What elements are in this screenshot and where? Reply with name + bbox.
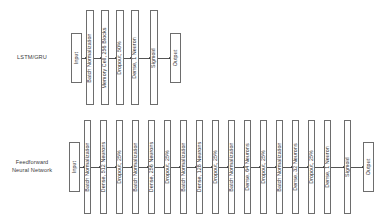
node-label: Batch Normalization xyxy=(229,142,234,191)
row-label-feedforward-neural-network: Feedforward Neural Network xyxy=(12,158,52,174)
arrow-lstm-gru-5 xyxy=(158,58,170,59)
node-label: Dense, 32 Neurons xyxy=(293,143,298,190)
node-feedforward-neural-network-dense-256: Dense, 256 Neurons xyxy=(148,120,155,214)
node-label: Output xyxy=(366,159,371,176)
node-lstm-gru-output: Output xyxy=(170,33,181,83)
node-feedforward-neural-network-dropout-4: Dropout, 25% xyxy=(260,120,267,214)
node-label: Dropout, 25% xyxy=(117,150,122,184)
node-feedforward-neural-network-batch-normalization-3: Batch Normalization xyxy=(180,120,187,214)
node-label: Dense, 1 Neuron xyxy=(325,146,330,188)
node-label: Dropout, 25% xyxy=(309,150,314,184)
node-feedforward-neural-network-batch-normalization-2: Batch Normalization xyxy=(132,120,139,214)
node-label: Dense, 1 Neuron xyxy=(132,37,137,79)
node-lstm-gru-input: Input xyxy=(71,33,82,83)
node-label: Input xyxy=(74,52,79,64)
node-feedforward-neural-network-dropout-5: Dropout, 25% xyxy=(308,120,315,214)
arrow-feedforward-neural-network-15 xyxy=(315,167,324,168)
arrow-feedforward-neural-network-4 xyxy=(139,167,148,168)
node-label: Dropout, 25% xyxy=(261,150,266,184)
node-label: Batch Normalization xyxy=(277,142,282,191)
arrow-lstm-gru-1 xyxy=(94,58,101,59)
arrow-feedforward-neural-network-6 xyxy=(171,167,180,168)
arrow-lstm-gru-3 xyxy=(124,58,131,59)
node-label: Batch Normalization xyxy=(133,142,138,191)
node-feedforward-neural-network-sigmoid: Sigmoid xyxy=(344,120,351,214)
node-feedforward-neural-network-dense-512: Dense, 512 Neurons xyxy=(100,120,107,214)
node-label: Dropout, 25% xyxy=(165,150,170,184)
node-label: Dense, 512 Neurons xyxy=(101,142,106,192)
node-feedforward-neural-network-batch-normalization-1: Batch Normalization xyxy=(84,120,91,214)
node-label: Memory Cell, 256 Blocks xyxy=(102,27,107,88)
network-architecture-diagram: LSTM/GRUInputBatch NormalizationMemory C… xyxy=(0,0,386,223)
arrow-feedforward-neural-network-2 xyxy=(107,167,116,168)
arrow-feedforward-neural-network-10 xyxy=(235,167,244,168)
arrow-feedforward-neural-network-11 xyxy=(251,167,260,168)
node-feedforward-neural-network-output: Output xyxy=(363,142,374,192)
arrow-feedforward-neural-network-13 xyxy=(283,167,292,168)
node-label: Batch Normalization xyxy=(87,33,92,82)
node-lstm-gru-memory-cell: Memory Cell, 256 Blocks xyxy=(101,10,109,105)
arrow-feedforward-neural-network-5 xyxy=(155,167,164,168)
node-feedforward-neural-network-dense-1: Dense, 1 Neuron xyxy=(324,120,331,214)
node-label: Dense, 64 Neurons xyxy=(245,143,250,190)
node-lstm-gru-sigmoid: Sigmoid xyxy=(150,10,158,105)
node-feedforward-neural-network-batch-normalization-5: Batch Normalization xyxy=(276,120,283,214)
node-label: Sigmoid xyxy=(151,48,156,68)
arrow-feedforward-neural-network-14 xyxy=(299,167,308,168)
arrow-feedforward-neural-network-7 xyxy=(187,167,196,168)
arrow-feedforward-neural-network-8 xyxy=(203,167,212,168)
node-label: Batch Normalization xyxy=(181,142,186,191)
node-feedforward-neural-network-input: Input xyxy=(69,142,80,192)
arrow-lstm-gru-4 xyxy=(139,58,150,59)
arrow-feedforward-neural-network-9 xyxy=(219,167,228,168)
node-feedforward-neural-network-dropout-2: Dropout, 25% xyxy=(164,120,171,214)
node-label: Dense, 128 Neurons xyxy=(197,142,202,192)
node-lstm-gru-dropout: Dropout, 50% xyxy=(116,10,124,105)
node-label: Input xyxy=(72,161,77,173)
node-label: Dropout, 25% xyxy=(213,150,218,184)
node-label: Batch Normalization xyxy=(85,142,90,191)
node-lstm-gru-batch-normalization: Batch Normalization xyxy=(86,10,94,105)
arrow-feedforward-neural-network-1 xyxy=(91,167,100,168)
row-label-lstm-gru: LSTM/GRU xyxy=(17,53,47,61)
arrow-feedforward-neural-network-17 xyxy=(351,167,363,168)
node-feedforward-neural-network-dense-64: Dense, 64 Neurons xyxy=(244,120,251,214)
node-lstm-gru-dense: Dense, 1 Neuron xyxy=(131,10,139,105)
node-feedforward-neural-network-dropout-3: Dropout, 25% xyxy=(212,120,219,214)
node-label: Dense, 256 Neurons xyxy=(149,142,154,192)
node-feedforward-neural-network-dropout-1: Dropout, 25% xyxy=(116,120,123,214)
node-feedforward-neural-network-dense-128: Dense, 128 Neurons xyxy=(196,120,203,214)
node-feedforward-neural-network-batch-normalization-4: Batch Normalization xyxy=(228,120,235,214)
arrow-feedforward-neural-network-12 xyxy=(267,167,276,168)
arrow-feedforward-neural-network-16 xyxy=(331,167,344,168)
node-feedforward-neural-network-dense-32: Dense, 32 Neurons xyxy=(292,120,299,214)
node-label: Sigmoid xyxy=(345,157,350,177)
arrow-lstm-gru-2 xyxy=(109,58,116,59)
arrow-feedforward-neural-network-3 xyxy=(123,167,132,168)
node-label: Output xyxy=(173,50,178,67)
node-label: Dropout, 50% xyxy=(117,41,122,75)
